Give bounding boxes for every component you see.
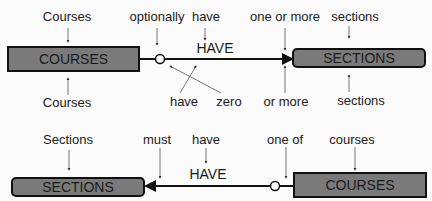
label-sections: Sections: [43, 133, 93, 147]
entity-courses: COURSES: [293, 172, 427, 198]
entity-sections: SECTIONS: [292, 48, 426, 68]
label-courses: Courses: [43, 10, 91, 24]
label-one-of: one of: [267, 133, 303, 147]
entity-sections: SECTIONS: [11, 177, 145, 197]
label-one-or-more: one or more: [250, 10, 320, 24]
label-courses: courses: [329, 133, 375, 147]
relationship-have: HAVE: [196, 41, 233, 55]
label-have-bottom: have: [170, 95, 198, 109]
label-have: have: [192, 10, 220, 24]
label-optionally: optionally: [130, 10, 185, 24]
label-courses-bottom: Courses: [43, 96, 91, 110]
relationship-have: HAVE: [189, 167, 226, 181]
label-sections: sections: [331, 10, 379, 24]
label-have: have: [192, 133, 220, 147]
label-zero: zero: [216, 95, 241, 109]
label-sections-bottom: sections: [337, 94, 385, 108]
label-must: must: [143, 133, 171, 147]
label-or-more: or more: [264, 95, 309, 109]
entity-courses: COURSES: [7, 46, 140, 72]
